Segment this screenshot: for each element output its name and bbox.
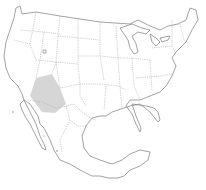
island-dot	[56, 150, 58, 152]
map-canvas	[0, 0, 206, 190]
island-dot	[43, 135, 44, 136]
island-dot	[12, 111, 14, 113]
location-marker	[43, 50, 46, 53]
mexico-state-borders	[60, 106, 86, 152]
